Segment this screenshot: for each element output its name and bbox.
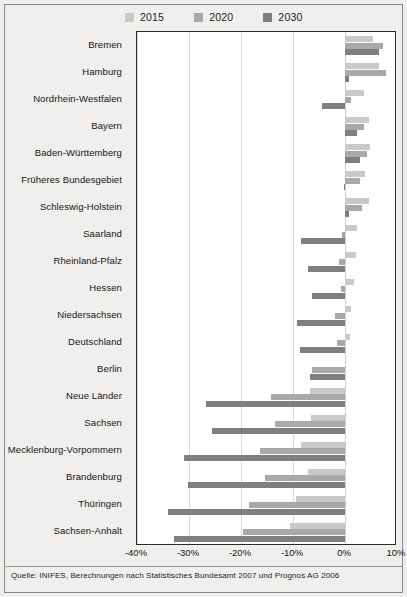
bar-2030	[344, 184, 345, 190]
category-label: Früheres Bundesgebiet	[21, 175, 122, 185]
bar-2030	[345, 130, 357, 136]
source-caption: Quelle: INIFES, Berechnungen nach Statis…	[11, 570, 396, 581]
category-label: Nordrhein-Westfalen	[33, 94, 122, 104]
bar-2015	[345, 279, 354, 285]
plot-wrapper	[136, 31, 396, 545]
bar-2015	[290, 523, 345, 529]
bar-2030	[345, 49, 379, 55]
bar-2030	[184, 455, 345, 461]
category-label: Sachsen	[84, 418, 122, 428]
category-label: Niedersachsen	[57, 310, 122, 320]
x-tick-label: 10%	[386, 547, 405, 558]
category-label: Neue Länder	[66, 391, 122, 401]
bar-2015	[345, 306, 351, 312]
legend-swatch-icon-2015	[125, 13, 134, 22]
bar-group	[137, 303, 395, 330]
legend-label: 2020	[209, 11, 233, 23]
bar-2020	[345, 70, 386, 76]
legend-item-2015: 2015	[125, 11, 164, 23]
bar-group	[137, 357, 395, 384]
bar-2020	[345, 43, 383, 49]
category-label: Brandenburg	[66, 472, 122, 482]
bar-2030	[345, 157, 360, 163]
bar-group	[137, 248, 395, 275]
bar-2030	[345, 76, 349, 82]
bar-group	[137, 438, 395, 465]
legend-item-2030: 2030	[263, 11, 302, 23]
bar-2020	[345, 97, 351, 103]
bar-2030	[212, 428, 345, 434]
plot-area	[136, 31, 396, 545]
category-label: Bayern	[91, 121, 122, 131]
category-axis-labels: BremenHamburgNordrhein-WestfalenBayernBa…	[0, 31, 130, 545]
bar-group	[137, 492, 395, 519]
bar-2020	[342, 232, 345, 238]
category-label: Berlin	[97, 364, 122, 374]
x-tick-label: -10%	[281, 547, 303, 558]
category-label: Hamburg	[82, 67, 122, 77]
bar-2020	[345, 151, 367, 157]
category-label: Saarland	[83, 229, 122, 239]
bar-2015	[310, 388, 345, 394]
bar-2015	[311, 415, 345, 421]
bar-2030	[310, 374, 345, 380]
bar-2030	[322, 103, 345, 109]
x-tick-label: -20%	[229, 547, 251, 558]
bar-2015	[345, 225, 357, 231]
bar-group	[137, 86, 395, 113]
bar-2030	[188, 482, 345, 488]
bar-2030	[168, 509, 345, 515]
bar-2020	[260, 448, 345, 454]
bar-group	[137, 519, 395, 545]
bar-2015	[345, 252, 356, 258]
bar-group	[137, 140, 395, 167]
bar-2030	[312, 293, 345, 299]
bar-2030	[301, 238, 345, 244]
category-label: Mecklenburg-Vorpommern	[8, 445, 122, 455]
x-tick-label: -30%	[177, 547, 199, 558]
x-tick-label: 0%	[337, 547, 351, 558]
x-tick-label: -40%	[125, 547, 147, 558]
bar-2015	[345, 90, 364, 96]
bar-2030	[297, 320, 345, 326]
bar-group	[137, 465, 395, 492]
bar-2020	[243, 529, 345, 535]
legend-label: 2030	[278, 11, 302, 23]
bar-group	[137, 194, 395, 221]
bar-group	[137, 32, 395, 59]
bar-2020	[271, 394, 345, 400]
x-axis-ticks: -40%-30%-20%-10%0%10%	[136, 547, 396, 561]
bar-2015	[308, 469, 345, 475]
bar-2015	[345, 334, 350, 340]
bar-2020	[345, 178, 360, 184]
chart-legend: 201520202030	[125, 9, 303, 25]
bar-2015	[345, 198, 369, 204]
bar-2015	[345, 63, 379, 69]
category-label: Rheinland-Pfalz	[53, 256, 122, 266]
chart-figure: 201520202030 BremenHamburgNordrhein-West…	[0, 0, 407, 597]
legend-swatch-icon-2030	[263, 13, 272, 22]
bar-group	[137, 59, 395, 86]
category-label: Sachsen-Anhalt	[54, 526, 122, 536]
bar-group	[137, 330, 395, 357]
bar-2015	[345, 144, 370, 150]
bar-2030	[308, 266, 345, 272]
bar-group	[137, 411, 395, 438]
bar-group	[137, 384, 395, 411]
bar-2020	[339, 259, 345, 265]
bar-2020	[341, 286, 345, 292]
bar-2015	[345, 117, 369, 123]
bar-2015	[296, 496, 345, 502]
bar-group	[137, 221, 395, 248]
bar-2030	[345, 211, 349, 217]
bar-2015	[345, 171, 365, 177]
bar-group	[137, 167, 395, 194]
category-label: Deutschland	[68, 337, 122, 347]
bar-2030	[174, 536, 345, 542]
category-label: Thüringen	[78, 499, 122, 509]
bar-2020	[335, 313, 345, 319]
bar-2020	[249, 502, 345, 508]
bar-2020	[337, 340, 345, 346]
legend-label: 2015	[140, 11, 164, 23]
bar-group	[137, 275, 395, 302]
